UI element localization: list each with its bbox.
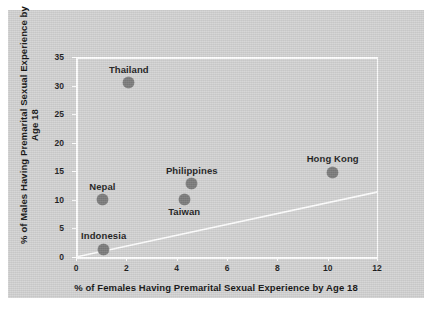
xtick-label-6: 6	[225, 263, 230, 273]
xtick-mark-10	[328, 257, 329, 261]
xtick-label-4: 4	[174, 263, 179, 273]
x-axis-title: % of Females Having Premarital Sexual Ex…	[8, 282, 424, 293]
data-point-marker	[98, 244, 109, 255]
ytick-label-30: 30	[55, 81, 64, 91]
data-point-label: Philippines	[166, 165, 218, 176]
plot-area: 0 2 4 6 8 10 12 0 5 10 15 20 25 30 35 Th…	[76, 57, 378, 257]
xtick-label-12: 12	[372, 263, 381, 273]
xtick-label-0: 0	[74, 263, 79, 273]
ytick-label-15: 15	[55, 166, 64, 176]
xtick-label-8: 8	[275, 263, 280, 273]
ytick-label-35: 35	[55, 52, 64, 62]
data-point-label: Thailand	[109, 64, 149, 75]
ytick-mark-35	[72, 57, 76, 58]
xtick-mark-8	[277, 257, 278, 261]
ytick-label-25: 25	[55, 109, 64, 119]
xtick-mark-0	[76, 257, 77, 261]
ytick-mark-20	[72, 143, 76, 144]
xtick-mark-4	[177, 257, 178, 261]
figure-panel: 0 2 4 6 8 10 12 0 5 10 15 20 25 30 35 Th…	[8, 10, 424, 298]
ytick-mark-15	[72, 171, 76, 172]
xtick-mark-6	[227, 257, 228, 261]
ytick-label-0: 0	[59, 252, 64, 262]
data-point-label: Hong Kong	[307, 153, 359, 164]
data-point-label: Nepal	[89, 181, 115, 192]
ytick-mark-25	[72, 114, 76, 115]
ytick-mark-0	[72, 257, 76, 258]
ytick-label-5: 5	[59, 223, 64, 233]
ytick-mark-10	[72, 200, 76, 201]
ytick-mark-30	[72, 86, 76, 87]
ytick-label-10: 10	[55, 195, 64, 205]
xtick-label-2: 2	[124, 263, 129, 273]
ytick-mark-5	[72, 228, 76, 229]
xtick-mark-2	[126, 257, 127, 261]
y-axis-title: % of Males Having Premarital Sexual Expe…	[18, 0, 40, 250]
data-point-label: Taiwan	[168, 206, 200, 217]
ytick-label-20: 20	[55, 138, 64, 148]
data-point-marker	[179, 194, 190, 205]
xtick-label-10: 10	[323, 263, 332, 273]
data-point-label: Indonesia	[81, 230, 126, 241]
xtick-mark-12	[377, 257, 378, 261]
